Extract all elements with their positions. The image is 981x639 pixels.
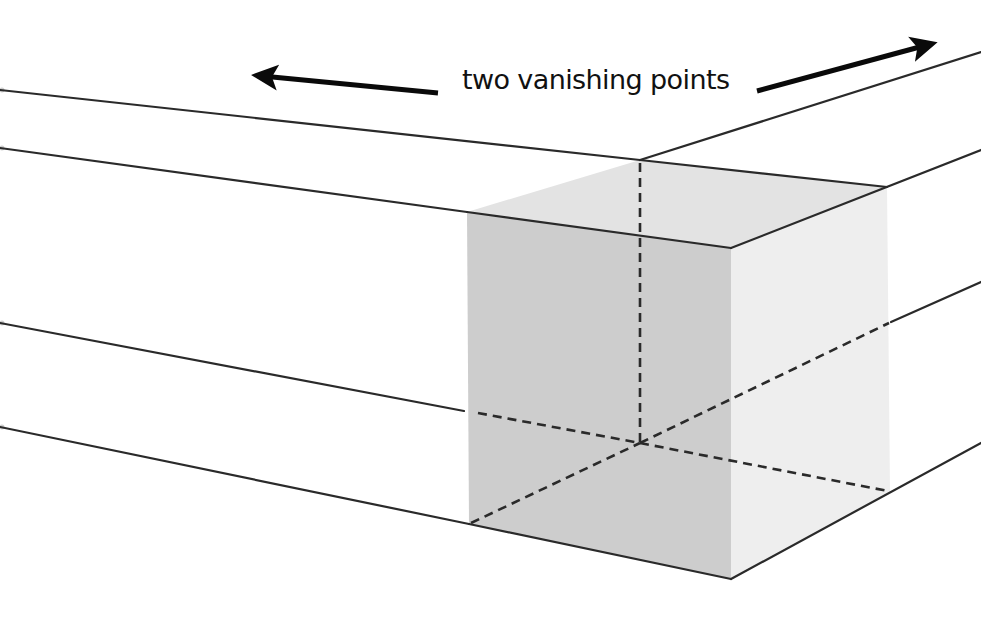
right-arrow-icon (757, 45, 927, 91)
vanishing-points-label: two vanishing points (462, 66, 729, 93)
left-arrow-icon (262, 76, 438, 93)
cube-right-face (731, 187, 890, 579)
edge-marks (0, 88, 5, 430)
cube-left-face (467, 212, 731, 579)
perspective-diagram: two vanishing points (0, 0, 981, 639)
cube (467, 160, 890, 579)
diagram-canvas (0, 0, 981, 639)
